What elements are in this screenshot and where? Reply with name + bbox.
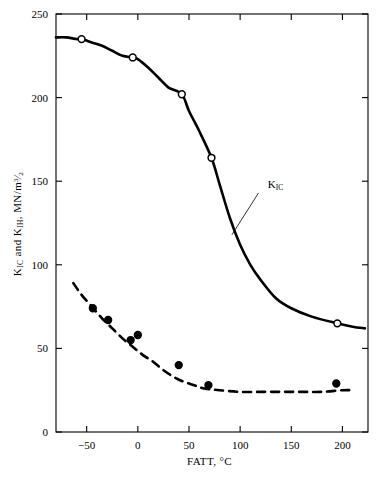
x-tick-label-50: 50 bbox=[183, 440, 194, 451]
y-axis-k2-subscript: IH bbox=[16, 219, 25, 228]
series-curve-k-ic bbox=[56, 37, 365, 328]
y-axis-unit-exp-numerator: 3 bbox=[12, 178, 20, 182]
x-tick-label-150: 150 bbox=[283, 440, 300, 451]
data-point-k-ic-1 bbox=[129, 54, 136, 61]
x-tick-label-minus50: −50 bbox=[78, 440, 95, 451]
y-axis-unit: MN/m bbox=[11, 182, 23, 213]
data-series bbox=[56, 37, 365, 392]
series-label-k1c-text: K bbox=[268, 178, 276, 190]
data-point-k-ih-0 bbox=[89, 305, 96, 312]
series-curve-k-ih bbox=[73, 283, 352, 392]
data-point-k-ih-5 bbox=[205, 382, 212, 389]
x-axis-title-name: FATT bbox=[187, 455, 213, 467]
y-axis-k1: K bbox=[11, 268, 23, 276]
data-point-k-ic-0 bbox=[78, 36, 85, 43]
data-markers bbox=[78, 36, 341, 389]
y-axis-unit-exp-denominator: 2 bbox=[17, 172, 25, 176]
data-point-k-ic-4 bbox=[334, 320, 341, 327]
x-tick-label-200: 200 bbox=[334, 440, 351, 451]
axes-frame bbox=[56, 14, 368, 432]
y-axis-title: KIC and KIH, MN/m3⁄2 bbox=[11, 124, 23, 324]
chart-plot-area bbox=[0, 0, 383, 483]
leader-line-k-ic bbox=[232, 193, 259, 235]
chart-figure: 050100150200250 −50050100150200 FATT, °C… bbox=[0, 0, 383, 483]
y-tick-label-50: 50 bbox=[14, 343, 48, 354]
annotation-leader-lines bbox=[205, 0, 258, 235]
data-point-k-ih-3 bbox=[134, 332, 141, 339]
y-axis-conjunction: and bbox=[11, 236, 23, 259]
data-point-k-ih-1 bbox=[105, 317, 112, 324]
axis-ticks bbox=[56, 14, 368, 432]
y-tick-label-0: 0 bbox=[14, 427, 48, 438]
x-tick-label-100: 100 bbox=[232, 440, 249, 451]
x-tick-label-0: 0 bbox=[135, 440, 141, 451]
data-point-k-ih-6 bbox=[333, 380, 340, 387]
data-point-k-ic-3 bbox=[208, 154, 215, 161]
x-axis-title-unit: °C bbox=[220, 455, 233, 467]
y-axis-unit-exponent: 3⁄2 bbox=[12, 172, 23, 182]
x-axis-title: FATT, °C bbox=[18, 455, 383, 467]
y-tick-label-250: 250 bbox=[14, 9, 48, 20]
data-point-k-ic-2 bbox=[178, 91, 185, 98]
series-label-k1c: KIC bbox=[268, 179, 283, 190]
y-axis-k2: K bbox=[11, 228, 23, 236]
data-point-k-ih-4 bbox=[175, 362, 182, 369]
y-tick-label-200: 200 bbox=[14, 92, 48, 103]
y-axis-k1-subscript: IC bbox=[16, 260, 25, 268]
data-point-k-ih-2 bbox=[127, 337, 134, 344]
series-label-k1c-subscript: IC bbox=[276, 183, 283, 192]
